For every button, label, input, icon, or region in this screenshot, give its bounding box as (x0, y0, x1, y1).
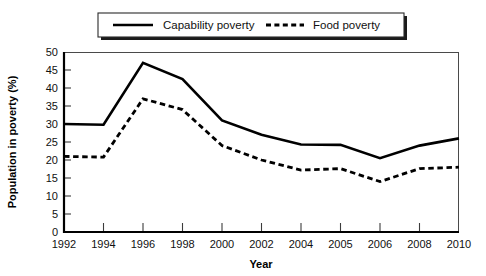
y-axis-title: Population in poverty (%) (6, 75, 18, 208)
poverty-trend-chart: Capability poverty Food poverty 05101520… (0, 0, 486, 276)
y-tick-label-25: 25 (46, 136, 58, 148)
x-tick-label-2010: 2010 (447, 238, 471, 250)
x-tick-label-1992: 1992 (52, 238, 76, 250)
y-tick-label-45: 45 (46, 64, 58, 76)
y-tick-label-15: 15 (46, 172, 58, 184)
x-tick-label-1998: 1998 (170, 238, 194, 250)
y-tick-label-50: 50 (46, 46, 58, 58)
chart-canvas: Capability poverty Food poverty 05101520… (0, 0, 486, 276)
x-tick-label-2008: 2008 (407, 238, 431, 250)
x-tick-label-2006: 2006 (368, 238, 392, 250)
x-tick-label-2002: 2002 (249, 238, 273, 250)
chart-legend: Capability poverty Food poverty (98, 13, 407, 40)
x-tick-label-2005: 2005 (328, 238, 352, 250)
y-tick-label-0: 0 (52, 226, 58, 238)
x-tick-label-2000: 2000 (210, 238, 234, 250)
y-tick-label-5: 5 (52, 208, 58, 220)
y-tick-label-40: 40 (46, 82, 58, 94)
legend-label-food-poverty: Food poverty (313, 19, 380, 31)
legend-label-capability-poverty: Capability poverty (163, 19, 255, 31)
plot-area-frame (64, 53, 459, 233)
y-tick-label-10: 10 (46, 190, 58, 202)
y-tick-label-30: 30 (46, 118, 58, 130)
x-tick-label-1994: 1994 (91, 238, 115, 250)
x-axis-title: Year (249, 258, 273, 270)
y-tick-label-20: 20 (46, 154, 58, 166)
y-tick-label-35: 35 (46, 100, 58, 112)
x-tick-label-1996: 1996 (131, 238, 155, 250)
x-tick-label-2004: 2004 (289, 238, 313, 250)
